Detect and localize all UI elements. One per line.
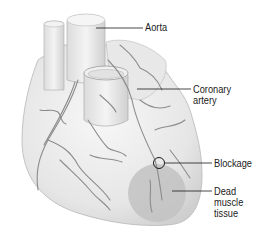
label-aorta: Aorta [145, 22, 167, 33]
label-dead-muscle-tissue: Dead muscle tissue [214, 186, 243, 219]
label-coronary-artery: Coronary artery [193, 84, 231, 106]
label-blockage: Blockage [214, 158, 252, 169]
vena-cava [44, 21, 64, 90]
dead-tissue-region [128, 164, 186, 222]
heart-diagram: Aorta Coronary artery Blockage Dead musc… [0, 0, 273, 239]
